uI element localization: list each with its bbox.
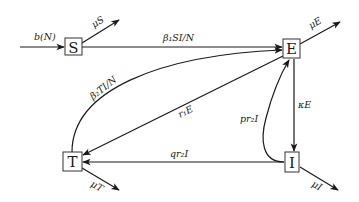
edge-death-i: μI	[300, 167, 338, 193]
node-e-label: E	[286, 40, 297, 58]
edge-birth: b(N)	[20, 31, 64, 47]
node-i: I	[285, 152, 299, 172]
node-s-label: S	[68, 39, 78, 57]
edge-s-to-e: β₁SI/N	[82, 32, 282, 47]
t-to-e-label: β₂TI/N	[87, 73, 119, 102]
edge-e-to-i: κE	[294, 59, 311, 151]
node-t-label: T	[67, 153, 77, 171]
death-s-label: μS	[89, 13, 106, 29]
edge-t-to-e: β₂TI/N	[72, 50, 282, 152]
e-to-i-label: κE	[297, 99, 311, 110]
node-s: S	[65, 38, 82, 57]
edge-death-t: μT	[82, 168, 119, 194]
edge-i-to-t: qr₂I	[83, 148, 284, 162]
edge-e-to-t: r₁E	[83, 56, 283, 155]
edge-death-s: μS	[82, 13, 119, 43]
node-i-label: I	[289, 154, 295, 172]
i-to-t-label: qr₂I	[170, 148, 188, 159]
flow-diagram: b(N) μS β₁SI/N μE β₂TI/N r₁E κE pr₂I qr₂…	[0, 0, 359, 202]
t-to-e-arrow	[72, 50, 282, 152]
s-to-e-label: β₁SI/N	[162, 32, 195, 43]
edge-death-e: μE	[300, 15, 340, 44]
i-to-e-arrow	[263, 60, 289, 162]
node-t: T	[63, 152, 82, 171]
death-e-label: μE	[307, 15, 324, 31]
node-e: E	[283, 39, 300, 58]
i-to-e-label: pr₂I	[240, 113, 258, 124]
edge-i-to-e: pr₂I	[240, 60, 289, 162]
birth-label: b(N)	[34, 31, 56, 42]
e-to-t-label: r₁E	[176, 103, 195, 120]
